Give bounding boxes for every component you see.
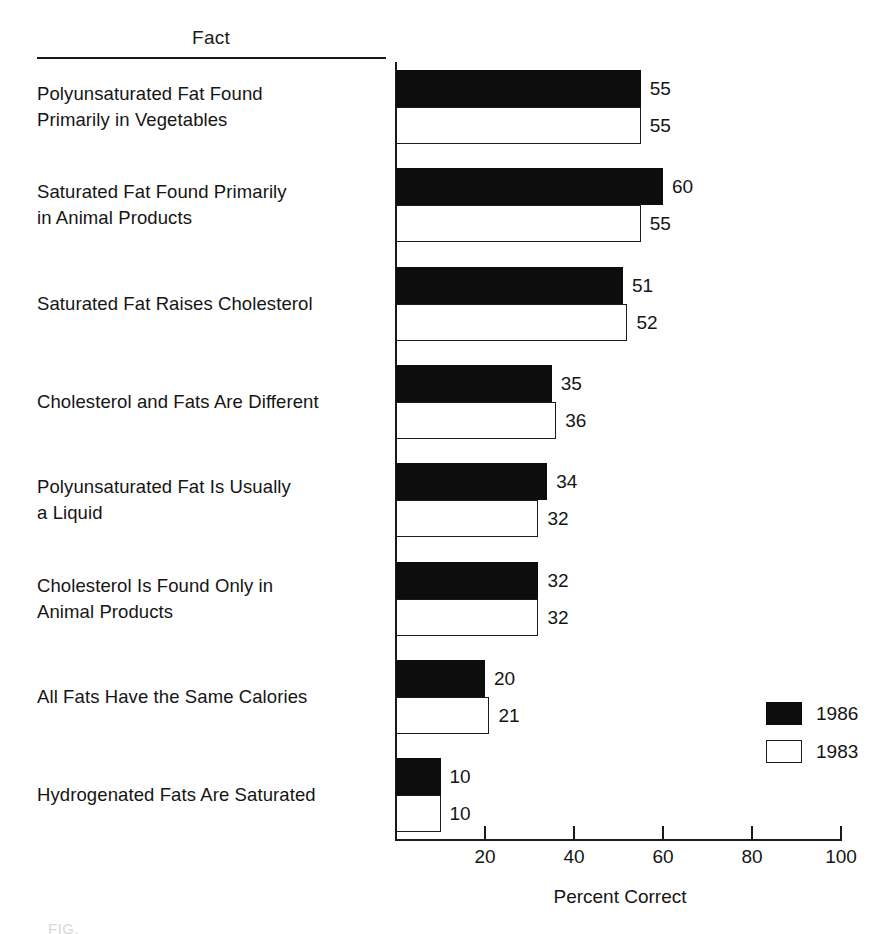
row-label: Hydrogenated Fats Are Saturated (37, 782, 389, 808)
bar-value-1986: 35 (561, 374, 582, 394)
row-label: All Fats Have the Same Calories (37, 684, 389, 710)
chart-page: Fact Polyunsaturated Fat Found Primarily… (0, 0, 894, 934)
legend: 1986 1983 (766, 700, 858, 776)
x-axis-tick-label: 80 (722, 846, 782, 868)
bar-value-1983: 52 (636, 313, 657, 333)
x-axis-tick (662, 826, 664, 841)
bar-value-1986: 51 (632, 276, 653, 296)
bar-1983 (396, 107, 641, 144)
x-axis-line (395, 839, 842, 841)
bar-1986 (396, 463, 547, 500)
bar-1986 (396, 660, 485, 697)
legend-label-1986: 1986 (816, 702, 858, 725)
x-axis-tick (751, 826, 753, 841)
row-label: Saturated Fat Raises Cholesterol (37, 291, 389, 317)
bar-value-1983: 55 (650, 116, 671, 136)
legend-entry-1983: 1983 (766, 738, 858, 764)
bar-value-1986: 32 (547, 571, 568, 591)
bar-value-1983: 36 (565, 411, 586, 431)
bar-1983 (396, 795, 441, 832)
legend-entry-1986: 1986 (766, 700, 858, 726)
bar-1986 (396, 168, 663, 205)
bar-1986 (396, 758, 441, 795)
x-axis-tick (484, 826, 486, 841)
bar-1983 (396, 304, 627, 341)
caption-fragment: FIG. (48, 920, 79, 934)
x-axis-tick (573, 826, 575, 841)
bar-value-1986: 34 (556, 472, 577, 492)
bar-1983 (396, 205, 641, 242)
x-axis-tick-label: 40 (544, 846, 604, 868)
bar-1986 (396, 365, 552, 402)
x-axis-title: Percent Correct (395, 886, 845, 908)
bar-1986 (396, 267, 623, 304)
x-axis-tick-label: 60 (633, 846, 693, 868)
bar-value-1983: 32 (547, 509, 568, 529)
row-label: Saturated Fat Found Primarily in Animal … (37, 179, 389, 231)
column-header-rule (37, 57, 386, 59)
x-axis-tick-label: 20 (455, 846, 515, 868)
bar-value-1983: 10 (450, 804, 471, 824)
bar-1986 (396, 70, 641, 107)
bar-value-1986: 55 (650, 79, 671, 99)
bar-1983 (396, 599, 538, 636)
x-axis-tick (840, 826, 842, 841)
bar-1983 (396, 402, 556, 439)
row-label: Polyunsaturated Fat Is Usually a Liquid (37, 474, 389, 526)
column-header-fact: Fact (37, 27, 385, 49)
bar-value-1986: 20 (494, 669, 515, 689)
legend-swatch-icon-1983 (766, 740, 802, 763)
x-axis-tick-label: 100 (811, 846, 871, 868)
bar-1983 (396, 500, 538, 537)
bar-value-1986: 60 (672, 177, 693, 197)
legend-label-1983: 1983 (816, 740, 858, 763)
legend-swatch-icon-1986 (766, 702, 802, 725)
row-label: Cholesterol Is Found Only in Animal Prod… (37, 573, 389, 625)
bar-1983 (396, 697, 489, 734)
bar-value-1983: 32 (547, 608, 568, 628)
bar-value-1983: 21 (498, 706, 519, 726)
bar-1986 (396, 562, 538, 599)
row-label: Cholesterol and Fats Are Different (37, 389, 389, 415)
bar-value-1986: 10 (450, 767, 471, 787)
bar-value-1983: 55 (650, 214, 671, 234)
row-label: Polyunsaturated Fat Found Primarily in V… (37, 81, 389, 133)
